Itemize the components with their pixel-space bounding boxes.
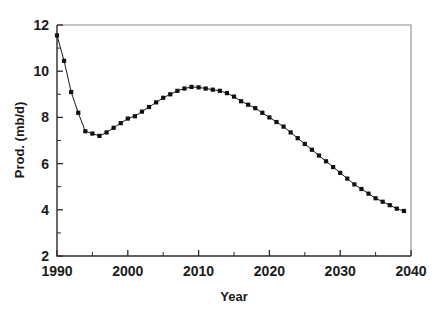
series-data-point [253, 106, 257, 110]
series-data-point [395, 207, 399, 211]
series-data-point [317, 153, 321, 157]
x-axis-ticks [57, 250, 411, 256]
series-data-point [331, 165, 335, 169]
series-data-point [281, 125, 285, 129]
x-tick-label: 2030 [325, 263, 356, 279]
series-data-point [303, 142, 307, 146]
series-data-point [147, 105, 151, 109]
series-data-point [197, 85, 201, 89]
series-data-point [324, 159, 328, 163]
x-tick-label: 2000 [112, 263, 143, 279]
series-data-point [62, 59, 66, 63]
y-tick-label: 8 [41, 109, 49, 125]
series-data-point [90, 131, 94, 135]
series-data-point [359, 187, 363, 191]
plot-axis-lines [57, 25, 411, 256]
y-tick-label: 6 [41, 156, 49, 172]
production-line-chart: 24681012 199020002010202020302040 Year P… [0, 0, 443, 311]
series-data-point [204, 86, 208, 90]
series-data-point [175, 89, 179, 93]
y-tick-label: 10 [33, 63, 49, 79]
x-tick-label: 2010 [183, 263, 214, 279]
series-data-point [161, 96, 165, 100]
series-data-point [168, 92, 172, 96]
x-tick-label: 1990 [41, 263, 72, 279]
series-data-point [338, 171, 342, 175]
x-axis-title: Year [220, 289, 247, 304]
series-data-point [310, 148, 314, 152]
y-axis-title: Prod. (mb/d) [12, 102, 27, 179]
series-data-point [69, 90, 73, 94]
series-data-point [381, 200, 385, 204]
y-tick-label: 12 [33, 17, 49, 33]
series-data-point [133, 114, 137, 118]
y-tick-label: 2 [41, 248, 49, 264]
x-axis-tick-labels: 199020002010202020302040 [41, 263, 426, 279]
series-data-point [126, 116, 130, 120]
series-data-point [274, 120, 278, 124]
series-data-point [76, 111, 80, 115]
series-data-point [211, 88, 215, 92]
series-data-point [345, 177, 349, 181]
series-data-point [119, 121, 123, 125]
series-data-point [267, 115, 271, 119]
y-axis-tick-labels: 24681012 [33, 17, 49, 264]
series-data-point [97, 134, 101, 138]
chart-figure: 24681012 199020002010202020302040 Year P… [0, 0, 443, 311]
x-tick-label: 2040 [395, 263, 426, 279]
plot-frame [57, 25, 411, 256]
series-data-point [260, 111, 264, 115]
series-data-point [55, 33, 59, 37]
series-data-point [104, 130, 108, 134]
series-data-point [218, 89, 222, 93]
y-tick-label: 4 [41, 202, 49, 218]
x-tick-label: 2020 [254, 263, 285, 279]
series-data-point [246, 103, 250, 107]
series-data-point [289, 130, 293, 134]
series-data-point [366, 192, 370, 196]
series-data-point [189, 85, 193, 89]
series-data-point [402, 209, 406, 213]
series-line-prod [57, 35, 404, 211]
series-data-point [388, 203, 392, 207]
series-data-point [140, 110, 144, 114]
series-data-point [83, 129, 87, 133]
data-series-group [55, 33, 406, 213]
series-data-point [296, 136, 300, 140]
series-data-point [374, 196, 378, 200]
series-data-point [232, 95, 236, 99]
series-data-point [239, 99, 243, 103]
series-data-point [225, 91, 229, 95]
series-data-point [112, 126, 116, 130]
series-data-point [182, 86, 186, 90]
plot-frame-border [57, 25, 411, 256]
series-data-point [352, 182, 356, 186]
series-markers-prod [55, 33, 406, 213]
series-data-point [154, 100, 158, 104]
